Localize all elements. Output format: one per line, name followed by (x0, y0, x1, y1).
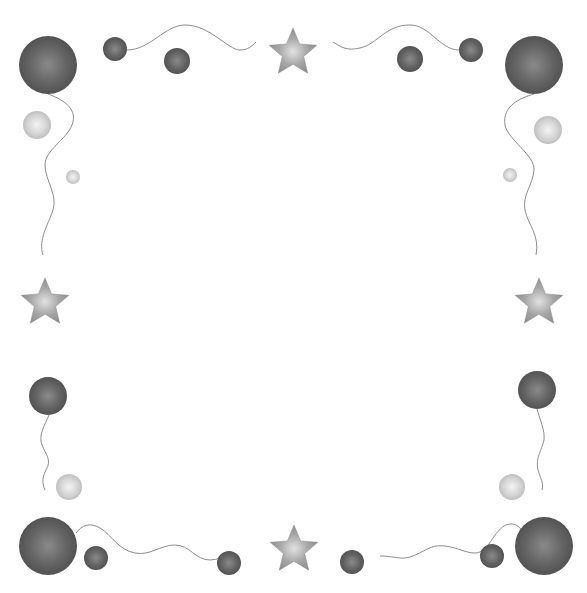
balloon-icon (503, 168, 517, 182)
empty-content-area (90, 100, 497, 500)
star-icon (515, 278, 563, 323)
balloon-icon (84, 546, 108, 570)
star-icon (269, 28, 317, 73)
balloon-icon (19, 517, 77, 575)
string-right-lower (537, 409, 544, 490)
balloon-icon (340, 550, 364, 574)
balloon-icon (459, 38, 483, 62)
balloon-icon (534, 116, 562, 144)
balloon-icon (103, 37, 127, 61)
star-icon (21, 278, 69, 323)
balloon-icon (56, 474, 82, 500)
balloon-icon (164, 48, 190, 74)
string-bottom-right (380, 524, 526, 558)
balloon-icon (480, 544, 504, 568)
star-icon (270, 525, 318, 570)
balloon-icon (505, 36, 563, 94)
balloon-icon (19, 36, 77, 94)
string-top-left (127, 25, 256, 50)
balloon-icon (217, 551, 241, 575)
balloon-icon (23, 111, 51, 139)
balloon-icon (66, 170, 80, 184)
string-top-right (333, 25, 459, 50)
balloon-icon (518, 371, 556, 409)
balloon-icon (29, 377, 67, 415)
balloon-icon (515, 517, 573, 575)
string-left-lower (41, 415, 49, 490)
balloon-icon (499, 474, 525, 500)
balloon-icon (397, 46, 423, 72)
